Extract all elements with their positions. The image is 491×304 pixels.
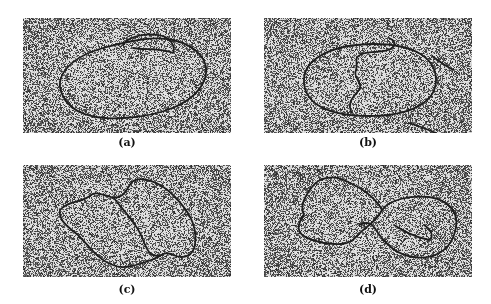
panel-label-b: (b) [338,136,398,149]
molecule-contour-c [23,165,231,277]
panel-label-d: (d) [338,283,398,296]
molecule-contour-a [23,18,231,133]
molecule-contour-d [264,165,472,277]
molecule-contour-b [264,18,472,133]
micrograph-panel-d [264,165,472,277]
micrograph-panel-c [23,165,231,277]
panel-label-c: (c) [97,283,157,296]
panel-label-a: (a) [97,136,157,149]
micrograph-panel-a [23,18,231,133]
micrograph-panel-b [264,18,472,133]
